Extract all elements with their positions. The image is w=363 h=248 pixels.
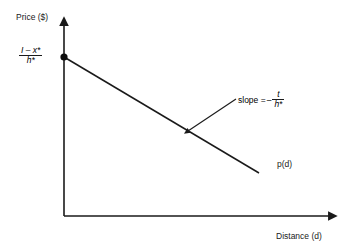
- figure-canvas: [0, 0, 363, 248]
- curve-label-pd: p(d): [277, 160, 292, 169]
- price-distance-line: [64, 57, 259, 173]
- slope-fraction: t h*: [272, 90, 284, 110]
- slope-sign: –: [267, 95, 272, 105]
- economics-price-distance-figure: Price ($) Distance (d) I – x* h* slope =…: [0, 0, 363, 248]
- slope-prefix: slope =: [238, 95, 266, 105]
- slope-callout-arrow: [188, 99, 236, 131]
- y-intercept-label: I – x* h*: [19, 46, 42, 66]
- y-intercept-point: [60, 53, 67, 60]
- slope-denominator: h*: [272, 100, 284, 109]
- y-axis-label: Price ($): [16, 13, 48, 22]
- slope-annotation: slope = – t h*: [238, 90, 284, 110]
- y-intercept-denominator: h*: [19, 56, 42, 65]
- x-axis-label: Distance (d): [276, 232, 322, 241]
